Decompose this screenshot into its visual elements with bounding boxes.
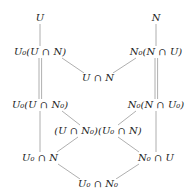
- node-n0-ncapu: N₀(N ∩ U): [129, 47, 183, 57]
- edge-middle-to-n0capu: [118, 137, 139, 152]
- node-u0capn: U₀ ∩ N: [21, 153, 59, 163]
- hasse-diagram: U N U₀(U ∩ N) N₀(N ∩ U) U ∩ N U₀(U ∩ N₀)…: [0, 0, 196, 196]
- edge-n0capu-to-u0capn0: [116, 164, 139, 179]
- node-n0-ncapu0: N₀(N ∩ U₀): [127, 100, 185, 110]
- node-middle-product: (U ∩ N₀)(U₀ ∩ N): [53, 126, 142, 136]
- edge-n0-ncapu0-to-middle: [118, 111, 136, 125]
- edge-u0-ucapn0-to-middle: [62, 111, 80, 125]
- node-ucapn: U ∩ N: [81, 73, 115, 83]
- edge-u0capn-to-u0capn0: [58, 164, 80, 179]
- edge-u0-ucapn-to-ucapn: [62, 58, 84, 73]
- node-u0-ucapn: U₀(U ∩ N): [13, 47, 67, 57]
- node-n0capu: N₀ ∩ U: [137, 153, 175, 163]
- edge-n0-ncapu-to-ucapn: [113, 58, 136, 73]
- diagram-edges: [0, 0, 196, 196]
- edge-middle-to-u0capn: [57, 137, 78, 152]
- node-n: N: [151, 13, 162, 23]
- node-u: U: [35, 13, 45, 23]
- node-u0capn0: U₀ ∩ N₀: [77, 179, 119, 189]
- node-u0-ucapn0: U₀(U ∩ N₀): [11, 100, 69, 110]
